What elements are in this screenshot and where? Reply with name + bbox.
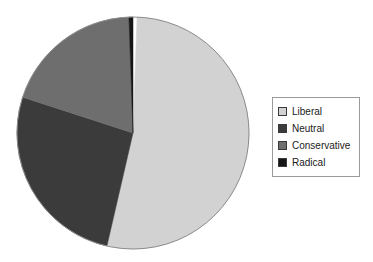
legend-swatch-conservative bbox=[278, 141, 287, 150]
pie-chart-figure: Liberal Neutral Conservative Radical bbox=[0, 0, 373, 262]
legend-swatch-liberal bbox=[278, 107, 287, 116]
legend-swatch-radical bbox=[278, 158, 287, 167]
legend-item-conservative[interactable]: Conservative bbox=[278, 137, 354, 154]
chart-legend: Liberal Neutral Conservative Radical bbox=[272, 97, 360, 177]
legend-label-liberal: Liberal bbox=[292, 106, 322, 117]
legend-label-neutral: Neutral bbox=[292, 123, 324, 134]
legend-item-neutral[interactable]: Neutral bbox=[278, 120, 354, 137]
legend-item-liberal[interactable]: Liberal bbox=[278, 103, 354, 120]
legend-item-radical[interactable]: Radical bbox=[278, 154, 354, 171]
legend-label-radical: Radical bbox=[292, 157, 325, 168]
legend-label-conservative: Conservative bbox=[292, 140, 350, 151]
legend-swatch-neutral bbox=[278, 124, 287, 133]
pie-slice-group bbox=[17, 17, 249, 249]
